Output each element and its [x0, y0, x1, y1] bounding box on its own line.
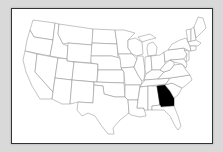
state-montana[interactable]: [58, 24, 93, 45]
us-map: [0, 0, 223, 152]
state-north-dakota[interactable]: [92, 29, 117, 44]
state-arkansas[interactable]: [125, 85, 140, 100]
state-kansas[interactable]: [97, 70, 124, 83]
state-colorado[interactable]: [72, 62, 98, 82]
state-connecticut[interactable]: [190, 46, 196, 51]
state-florida[interactable]: [152, 105, 181, 130]
state-arizona[interactable]: [52, 78, 72, 104]
state-wyoming[interactable]: [67, 43, 92, 63]
state-new-mexico[interactable]: [70, 80, 94, 104]
state-maine[interactable]: [194, 17, 206, 38]
